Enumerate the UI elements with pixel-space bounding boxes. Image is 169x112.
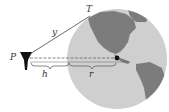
label-r: r bbox=[89, 69, 94, 79]
label-t: T bbox=[86, 4, 93, 14]
observer-tower-icon bbox=[20, 52, 32, 70]
earth-center-point bbox=[115, 56, 120, 61]
diagram-canvas: P T y h r bbox=[0, 0, 169, 112]
brace-h bbox=[31, 63, 69, 69]
label-p: P bbox=[9, 52, 17, 62]
label-h: h bbox=[42, 69, 48, 79]
label-y: y bbox=[51, 27, 58, 37]
